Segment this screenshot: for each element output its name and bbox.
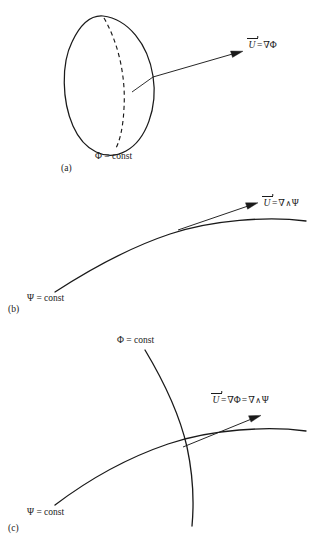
panel-a-graphics [0,0,320,180]
panel-b-wedge: ∧ [285,199,292,208]
panel-c-wedge: ∧ [255,396,262,405]
panel-a-equation: U=∇Φ [248,41,277,51]
figure-container: Φ = const U=∇Φ (a) Ψ = const U=∇∧Ψ (b) Φ… [0,0,320,544]
streamline-curve-psi [55,219,306,292]
panel-c-phi-label: Φ = const [117,336,154,346]
panel-a-leader-line [132,77,153,92]
panel-c-vector-symbol: U [212,395,220,405]
panel-a-label: (a) [61,164,72,174]
panel-b-vector-symbol: U [263,198,271,208]
panel-c-vector-arrow [183,415,261,447]
panel-c-psi: Ψ [262,395,269,405]
panel-b-label: (b) [8,305,19,315]
panel-c-equation: U=∇Φ=∇∧Ψ [212,396,269,406]
equipotential-curve-phi [145,350,193,526]
panel-b-curve-label: Ψ = const [27,294,64,304]
panel-a-vector-symbol: U [248,40,256,50]
panel-a-vector-arrow [153,51,243,77]
panel-b-grad: ∇ [278,198,285,208]
surface-meridian-dashed [104,18,124,150]
panel-c-grad: ∇ [248,395,255,405]
streamline-curve-psi [55,429,306,505]
panel-b-psi: Ψ [292,198,299,208]
panel-a-surface-label: Φ = const [95,152,132,162]
panel-a-grad-phi: ∇Φ [263,40,277,50]
panel-b-vector-arrow [178,203,258,230]
panel-c-label: (c) [8,524,19,534]
panel-c-grad-phi: ∇Φ [227,395,241,405]
panel-c-psi-label: Ψ = const [27,508,64,518]
panel-b-equation: U=∇∧Ψ [263,199,299,209]
